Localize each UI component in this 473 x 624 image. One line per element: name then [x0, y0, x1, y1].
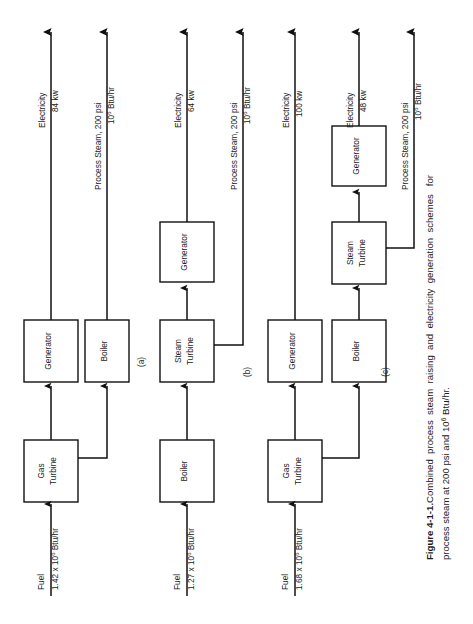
scheme-a-process-steam-value: 106 Btu/hr [106, 87, 116, 124]
scheme-c-exhaust-to-boiler-arrow [322, 386, 359, 458]
scheme-b-fuel-value: 1.27 x 106 Btu/hr [186, 528, 196, 590]
scheme-b-process-steam-label: Process Steam, 200 psi [229, 102, 239, 190]
scheme-c-gas-turbine-label-line2: Turbine [293, 457, 303, 485]
scheme-b-ps-pre: 10 [242, 114, 252, 124]
scheme-b-generator-label: Generator [179, 233, 189, 271]
scheme-c-generator-gas-label: Generator [287, 332, 297, 370]
scheme-a-fuel-value-post: Btu/hr [50, 528, 60, 553]
scheme-c-boiler-label: Boiler [351, 340, 361, 361]
scheme-a-gas-turbine-label-line1: Gas [36, 463, 46, 478]
scheme-b-fuel-label: Fuel [172, 574, 182, 590]
scheme-b-id-label: (b) [242, 367, 252, 377]
scheme-c-generator-steam-label: Generator [351, 137, 361, 175]
scheme-a-exhaust-to-boiler-arrow [78, 386, 107, 458]
scheme-b-fuel-value-pre: 1.27 x 10 [186, 555, 196, 590]
scheme-c-fuel-label: Fuel [280, 574, 290, 590]
figure-caption-line2-text: process steam at 200 psi and 10 [440, 421, 451, 560]
scheme-a-electricity-value: 84 kw [50, 89, 60, 112]
scheme-a-ps-pre: 10 [106, 114, 116, 124]
scheme-c-fuel-value-post: Btu/hr [294, 528, 304, 553]
scheme-c-process-steam-value: 106 Btu/hr [413, 83, 423, 120]
scheme-a-electricity-label: Electricity [37, 92, 47, 128]
scheme-a-fuel-value-pre: 1.42 x 10 [50, 555, 60, 590]
scheme-b-steam-turbine-label-line1: Steam [173, 339, 183, 363]
scheme-b-electricity-value: 64 kw [186, 89, 196, 112]
scheme-c-electricity-steam-label: Electricity [345, 92, 355, 128]
scheme-a-ps-post: Btu/hr [106, 87, 116, 112]
scheme-c-ps-post: Btu/hr [413, 83, 423, 108]
process-flow-diagram: Gas Turbine Generator Boiler Fuel 1.42 x… [0, 0, 473, 624]
scheme-b-electricity-label: Electricity [173, 92, 183, 128]
scheme-c-gas-turbine-label-line1: Gas [281, 463, 291, 478]
figure-caption: Figure 4-1-1.Combined process steam rais… [424, 174, 451, 560]
scheme-c-group: Gas Turbine Generator Boiler Steam Turbi… [268, 32, 423, 596]
figure-caption-line2-tail: Btu/hr. [440, 387, 451, 417]
scheme-a-group: Gas Turbine Generator Boiler Fuel 1.42 x… [24, 32, 146, 596]
scheme-a-id-label: (a) [136, 357, 146, 367]
scheme-b-boiler-label: Boiler [179, 460, 189, 481]
scheme-a-gas-turbine-label-line2: Turbine [48, 457, 58, 485]
scheme-b-fuel-value-post: Btu/hr [186, 528, 196, 553]
figure-page: Gas Turbine Generator Boiler Fuel 1.42 x… [0, 0, 473, 624]
scheme-c-electricity-gas-value: 100 kw [294, 90, 304, 117]
scheme-a-process-steam-label: Process Steam, 200 psi [93, 102, 103, 190]
figure-number: Figure 4-1-1. [424, 503, 435, 560]
scheme-c-steam-turbine-label-line1: Steam [345, 241, 355, 265]
scheme-c-electricity-steam-value: 48 kw [358, 89, 368, 112]
scheme-a-fuel-label: Fuel [36, 574, 46, 590]
scheme-c-id-label: (c) [380, 367, 390, 377]
scheme-a-generator-label: Generator [43, 332, 53, 370]
scheme-c-electricity-gas-label: Electricity [281, 92, 291, 128]
scheme-a-fuel-value: 1.42 x 106 Btu/hr [50, 528, 60, 590]
scheme-c-process-steam-label: Process Steam, 200 psi [400, 102, 410, 190]
scheme-b-process-steam-value: 106 Btu/hr [242, 87, 252, 124]
scheme-c-fuel-value: 1.68 x 106 Btu/hr [294, 528, 304, 590]
figure-caption-line1-text: Combined process steam raising and elect… [424, 174, 435, 503]
scheme-c-fuel-value-pre: 1.68 x 10 [294, 555, 304, 590]
scheme-a-boiler-label: Boiler [99, 340, 109, 361]
scheme-b-ps-post: Btu/hr [242, 87, 252, 112]
figure-caption-line2: process steam at 200 psi and 106 Btu/hr. [440, 387, 452, 560]
scheme-c-ps-pre: 10 [413, 110, 423, 120]
scheme-c-steam-turbine-label-line2: Turbine [357, 239, 367, 267]
scheme-b-steam-turbine-label-line2: Turbine [185, 337, 195, 365]
figure-caption-line1: Figure 4-1-1.Combined process steam rais… [424, 174, 435, 560]
scheme-b-group: Boiler Steam Turbine Generator Fuel 1.27… [160, 32, 252, 596]
